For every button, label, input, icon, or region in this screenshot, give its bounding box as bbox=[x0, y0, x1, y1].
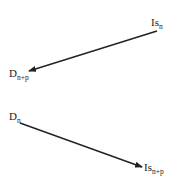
node-label-d-n-plus-p: Dn+p bbox=[9, 67, 29, 82]
arrow-is-n-to-d-n-plus-p bbox=[29, 31, 157, 71]
diagram-canvas: Isn Dn+p Dn Isn+p bbox=[0, 0, 179, 191]
node-label-is-n: Isn bbox=[151, 16, 163, 31]
arrow-d-n-to-is-n-plus-p bbox=[20, 123, 142, 167]
node-label-d-n: Dn bbox=[9, 110, 21, 125]
node-label-is-n-plus-p: Isn+p bbox=[144, 161, 164, 176]
